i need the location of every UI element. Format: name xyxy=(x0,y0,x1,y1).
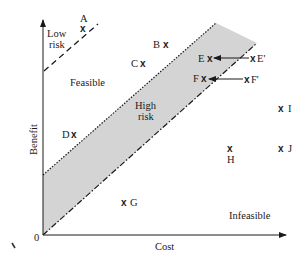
svg-text:x: x xyxy=(227,143,233,154)
svg-text:x: x xyxy=(140,58,146,69)
point-g: x G xyxy=(121,197,138,208)
point-e-prime: x E' xyxy=(250,53,265,64)
origin-label: 0 xyxy=(34,232,39,243)
svg-text:B: B xyxy=(153,39,160,50)
svg-text:x: x xyxy=(250,53,256,64)
svg-text:F': F' xyxy=(251,74,259,85)
svg-text:x: x xyxy=(207,53,213,64)
point-h: x H xyxy=(227,143,235,165)
point-c: C x xyxy=(131,58,146,69)
svg-text:F: F xyxy=(193,73,199,84)
y-axis-label: Benefit xyxy=(28,124,39,155)
svg-text:I: I xyxy=(288,103,292,114)
svg-text:E': E' xyxy=(257,53,265,64)
svg-text:x: x xyxy=(163,39,169,50)
point-f-prime: x F' xyxy=(244,74,259,85)
svg-text:x: x xyxy=(71,129,77,140)
svg-text:x: x xyxy=(278,103,284,114)
point-d: D x xyxy=(62,129,77,140)
cost-benefit-risk-diagram: 0 Cost Benefit Low risk Feasible High ri… xyxy=(0,0,308,267)
svg-text:G: G xyxy=(130,197,138,208)
infeasible-label: Infeasible xyxy=(229,210,271,221)
point-j: x J xyxy=(278,143,292,154)
svg-text:E: E xyxy=(198,53,204,64)
low-risk-label-line1: Low xyxy=(47,28,67,39)
svg-text:J: J xyxy=(288,143,292,154)
feasible-label: Feasible xyxy=(70,77,105,88)
svg-text:C: C xyxy=(131,58,138,69)
svg-text:D: D xyxy=(62,129,70,140)
svg-text:x: x xyxy=(201,73,207,84)
svg-text:x: x xyxy=(244,74,250,85)
svg-text:H: H xyxy=(227,154,235,165)
svg-text:x: x xyxy=(278,143,284,154)
high-risk-label-line2: risk xyxy=(138,111,155,122)
point-b: B x xyxy=(153,39,169,50)
stray-mark xyxy=(12,243,15,248)
x-axis-label: Cost xyxy=(155,241,174,252)
point-i: x I xyxy=(278,103,292,114)
high-risk-label-line1: High xyxy=(135,100,157,111)
low-risk-label-line2: risk xyxy=(49,39,66,50)
point-a: A x xyxy=(80,13,88,34)
svg-text:x: x xyxy=(121,197,127,208)
svg-text:x: x xyxy=(80,23,86,34)
